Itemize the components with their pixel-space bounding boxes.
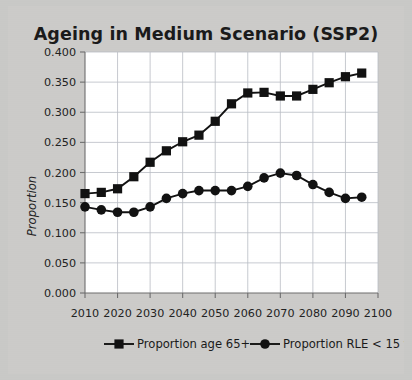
- data-point-marker: [80, 189, 89, 198]
- data-point-marker: [210, 186, 220, 196]
- data-point-marker: [162, 194, 172, 204]
- y-tick-label: 0.200: [44, 167, 76, 180]
- data-point-marker: [194, 186, 204, 196]
- chart-inner: Ageing in Medium Scenario (SSP2) 0.0000.…: [8, 6, 404, 374]
- data-point-marker: [145, 202, 155, 212]
- chart-svg: 0.0000.0500.1000.1500.2000.2500.3000.350…: [8, 6, 404, 374]
- data-point-marker: [211, 117, 220, 126]
- data-point-marker: [178, 137, 187, 146]
- data-point-marker: [357, 192, 367, 202]
- x-tick-label: 2040: [168, 307, 196, 320]
- chart-card: Ageing in Medium Scenario (SSP2) 0.0000.…: [0, 0, 412, 380]
- legend-marker-circle: [260, 339, 270, 349]
- data-point-marker: [308, 180, 318, 190]
- chart-legend: Proportion age 65+Proportion RLE < 15 ye…: [104, 337, 404, 351]
- data-point-marker: [259, 173, 269, 183]
- data-point-marker: [146, 158, 155, 167]
- x-tick-label: 2090: [331, 307, 359, 320]
- x-tick-label: 2050: [201, 307, 229, 320]
- data-point-marker: [97, 188, 106, 197]
- data-point-marker: [96, 205, 106, 215]
- data-point-marker: [308, 85, 317, 94]
- y-tick-label: 0.250: [44, 136, 76, 149]
- data-point-marker: [324, 188, 334, 198]
- y-tick-label: 0.100: [44, 227, 76, 240]
- data-point-marker: [243, 182, 253, 192]
- data-point-marker: [129, 207, 139, 217]
- legend-label-1[interactable]: Proportion age 65+: [137, 337, 250, 351]
- x-tick-label: 2080: [299, 307, 327, 320]
- x-tick-label: 2100: [364, 307, 392, 320]
- data-point-marker: [227, 99, 236, 108]
- data-point-marker: [357, 68, 366, 77]
- data-point-marker: [292, 171, 302, 181]
- y-tick-label: 0.400: [44, 46, 76, 59]
- y-axis-label: Proportion: [25, 176, 39, 236]
- data-point-marker: [276, 168, 286, 178]
- data-point-marker: [243, 88, 252, 97]
- legend-label-2[interactable]: Proportion RLE < 15 years: [283, 337, 404, 351]
- y-tick-label: 0.000: [44, 287, 76, 300]
- x-tick-label: 2060: [234, 307, 262, 320]
- y-tick-labels: 0.0000.0500.1000.1500.2000.2500.3000.350…: [44, 46, 76, 300]
- y-tick-label: 0.050: [44, 257, 76, 270]
- data-point-marker: [341, 72, 350, 81]
- data-point-marker: [162, 146, 171, 155]
- y-tick-label: 0.300: [44, 106, 76, 119]
- data-point-marker: [129, 172, 138, 181]
- data-point-marker: [341, 194, 351, 204]
- y-tick-label: 0.350: [44, 76, 76, 89]
- data-point-marker: [113, 184, 122, 193]
- data-point-marker: [259, 88, 268, 97]
- data-point-marker: [80, 202, 90, 212]
- x-tick-label: 2020: [103, 307, 131, 320]
- data-point-marker: [178, 189, 188, 199]
- legend-marker-square: [114, 339, 123, 348]
- data-point-marker: [292, 91, 301, 100]
- y-tick-label: 0.150: [44, 197, 76, 210]
- data-point-marker: [113, 207, 123, 217]
- data-point-marker: [325, 78, 334, 87]
- data-point-marker: [276, 91, 285, 100]
- x-tick-label: 2010: [71, 307, 99, 320]
- x-tick-labels: 2010202020302040205020602070208020902100: [71, 307, 392, 320]
- data-point-marker: [194, 131, 203, 140]
- x-tick-label: 2030: [136, 307, 164, 320]
- data-point-marker: [227, 186, 237, 196]
- x-tick-label: 2070: [266, 307, 294, 320]
- plot-area: 0.0000.0500.1000.1500.2000.2500.3000.350…: [8, 6, 404, 374]
